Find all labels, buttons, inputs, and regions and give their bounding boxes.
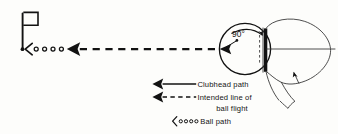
legend-ball-dot	[179, 120, 182, 123]
ball-path-dot	[43, 47, 47, 51]
ball-path-dot	[59, 47, 63, 51]
diagram-canvas: 90°	[0, 0, 338, 134]
legend-dashed-arrowhead	[152, 91, 163, 102]
legend-label-intended-line: Intended line of	[197, 93, 252, 102]
ball-path-indicator	[25, 43, 63, 54]
clubhead-path-arc	[266, 19, 336, 108]
legend-ball-dot	[184, 120, 187, 123]
legend-row-ball-path: Ball path	[173, 117, 232, 126]
angle-label: 90°	[232, 29, 245, 39]
legend: Clubhead path Intended line of ball flig…	[152, 78, 252, 126]
ball-path-dot	[51, 47, 55, 51]
legend-ball-dot	[190, 120, 193, 123]
hole	[21, 47, 25, 51]
legend-chevron-icon	[173, 117, 177, 126]
ball-path-dot	[34, 47, 38, 51]
legend-label-ball-flight: ball flight	[216, 104, 248, 113]
legend-row-intended-line: Intended line of	[152, 91, 252, 102]
clubface	[263, 28, 266, 73]
legend-ball-dot	[195, 120, 198, 123]
legend-label-clubhead-path: Clubhead path	[197, 80, 248, 89]
golf-swing-path-figure: 90°	[0, 0, 338, 134]
legend-row-clubhead-path: Clubhead path	[152, 78, 248, 89]
legend-solid-arrowhead	[152, 78, 163, 89]
legend-label-ball-path: Ball path	[200, 117, 231, 126]
intended-line-of-ball-flight	[67, 42, 216, 56]
